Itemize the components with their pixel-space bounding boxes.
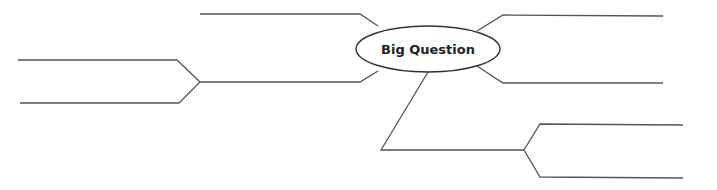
branch-bottom-right-upper <box>524 124 683 150</box>
branch-left-upper <box>18 60 200 82</box>
branch-top-left <box>200 14 378 26</box>
branch-bottom-connector <box>381 72 524 150</box>
branch-right-middle <box>477 66 663 83</box>
concept-map-diagram: Big Question <box>0 0 717 190</box>
branch-left-connector <box>200 71 378 82</box>
branch-left-lower <box>20 82 200 103</box>
branch-bottom-right-lower <box>524 150 683 178</box>
center-node-label: Big Question <box>381 42 475 57</box>
branch-top-right <box>477 15 663 31</box>
